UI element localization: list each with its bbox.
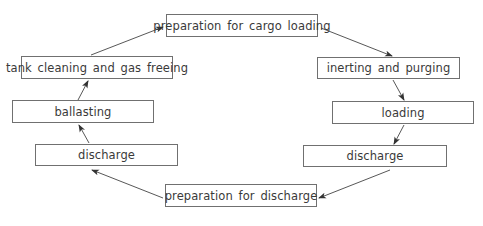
node-label: preparation for cargo loading: [153, 19, 330, 33]
node-preparation-for-cargo-loading: preparation for cargo loading: [166, 14, 318, 37]
node-label: preparation for discharge: [165, 189, 318, 203]
arrow-discharge-to-ballasting: [79, 125, 89, 143]
node-ballasting: ballasting: [12, 100, 154, 123]
arrow-discharge-to-prep-discharge: [319, 170, 390, 198]
node-label: discharge: [78, 148, 135, 162]
node-discharge-left: discharge: [35, 144, 178, 166]
arrow-ballasting-to-tank-cleaning: [78, 81, 88, 100]
node-loading: loading: [332, 101, 474, 124]
node-label: inerting and purging: [327, 61, 451, 75]
node-preparation-for-discharge: preparation for discharge: [165, 184, 317, 207]
arrow-prep-discharge-to-discharge: [92, 170, 163, 198]
arrow-loading-to-discharge: [394, 125, 404, 144]
node-label: ballasting: [54, 105, 111, 119]
arrow-prep-loading-to-inerting: [321, 28, 392, 56]
arrow-inerting-to-loading: [393, 80, 404, 100]
node-label: discharge: [347, 149, 404, 163]
arrow-tank-cleaning-to-prep-loading: [91, 27, 163, 55]
node-inerting-and-purging: inerting and purging: [317, 57, 460, 79]
node-tank-cleaning-and-gas-freeing: tank cleaning and gas freeing: [21, 56, 173, 79]
node-discharge-right: discharge: [303, 145, 447, 167]
node-label: tank cleaning and gas freeing: [6, 61, 188, 75]
node-label: loading: [381, 106, 424, 120]
